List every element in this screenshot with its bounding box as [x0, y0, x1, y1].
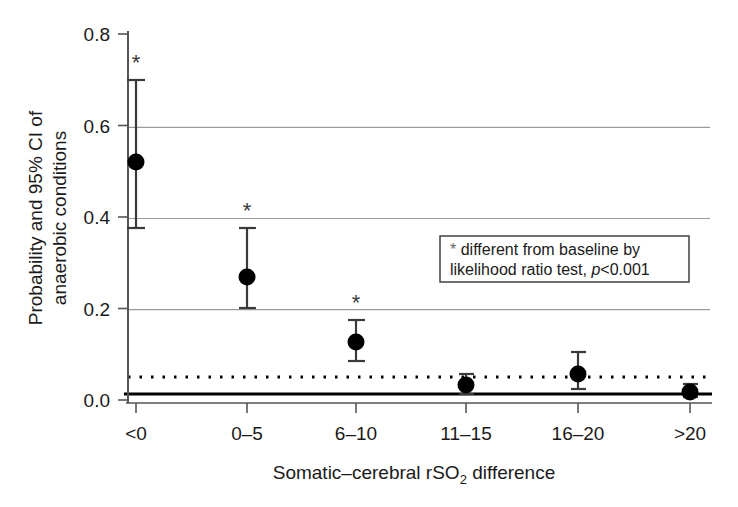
- data-point-group-1[interactable]: *: [239, 198, 257, 308]
- x-axis-title-main: Somatic–cerebral rSO: [273, 462, 460, 483]
- x-tick-label-4: 16–20: [552, 423, 605, 444]
- significance-star-0: *: [132, 50, 141, 75]
- svg-text:Somatic–cerebral rSO2 differen: Somatic–cerebral rSO2 difference: [273, 462, 556, 487]
- legend-line2-suffix: <0.001: [600, 261, 649, 278]
- y-tick-labels: 0.8 0.6 0.4 0.2 0.0: [84, 24, 111, 411]
- data-point-group-0[interactable]: *: [127, 50, 145, 228]
- x-axis-title-subscript: 2: [460, 472, 467, 487]
- x-tick-labels: <0 0–5 6–10 11–15 16–20 >20: [125, 423, 706, 444]
- y-axis-title-line2: anaerobic conditions: [49, 131, 70, 305]
- data-series: * * *: [127, 50, 699, 401]
- y-tick-label-0: 0.0: [84, 390, 110, 411]
- legend-line1-text: different from baseline by: [456, 241, 640, 258]
- data-point-marker-4[interactable]: [570, 366, 587, 383]
- legend-line2-prefix: likelihood ratio test,: [450, 261, 591, 278]
- significance-star-2: *: [352, 290, 361, 315]
- legend-line2-italic-p: p: [590, 261, 600, 278]
- data-point-group-2[interactable]: *: [348, 290, 366, 361]
- figure-container: 0.8 0.6 0.4 0.2 0.0 Probability and 95% …: [0, 0, 738, 507]
- data-point-marker-1[interactable]: [239, 269, 256, 286]
- x-axis-title-tail: difference: [467, 462, 555, 483]
- y-axis-title: Probability and 95% CI of anaerobic cond…: [25, 110, 70, 325]
- data-point-marker-3[interactable]: [458, 377, 475, 394]
- data-point-group-4[interactable]: [570, 352, 587, 389]
- y-tick-label-3: 0.6: [84, 116, 110, 137]
- y-tick-label-4: 0.8: [84, 24, 110, 45]
- x-tick-label-1: 0–5: [231, 423, 263, 444]
- data-point-marker-0[interactable]: [128, 154, 145, 171]
- legend-box: * different from baseline by likelihood …: [440, 236, 689, 282]
- data-point-group-5[interactable]: [682, 384, 699, 401]
- y-axis-title-line1: Probability and 95% CI of: [25, 110, 46, 325]
- svg-text:* different from baseline by: * different from baseline by: [450, 241, 640, 258]
- x-axis-title: Somatic–cerebral rSO2 difference: [273, 462, 556, 487]
- probability-error-bar-chart: 0.8 0.6 0.4 0.2 0.0 Probability and 95% …: [0, 0, 738, 507]
- x-tick-label-2: 6–10: [335, 423, 377, 444]
- y-tick-label-2: 0.4: [84, 207, 111, 228]
- data-point-marker-2[interactable]: [348, 334, 365, 351]
- x-tick-label-0: <0: [125, 423, 147, 444]
- significance-star-1: *: [243, 198, 252, 223]
- y-tick-label-1: 0.2: [84, 299, 110, 320]
- x-tick-label-5: >20: [674, 423, 706, 444]
- x-axis: [126, 403, 712, 413]
- data-point-marker-5[interactable]: [682, 384, 699, 401]
- data-point-group-3[interactable]: [458, 374, 475, 394]
- x-tick-label-3: 11–15: [440, 423, 491, 444]
- y-axis: [118, 31, 128, 403]
- svg-text:likelihood ratio test, p<0.001: likelihood ratio test, p<0.001: [450, 261, 650, 278]
